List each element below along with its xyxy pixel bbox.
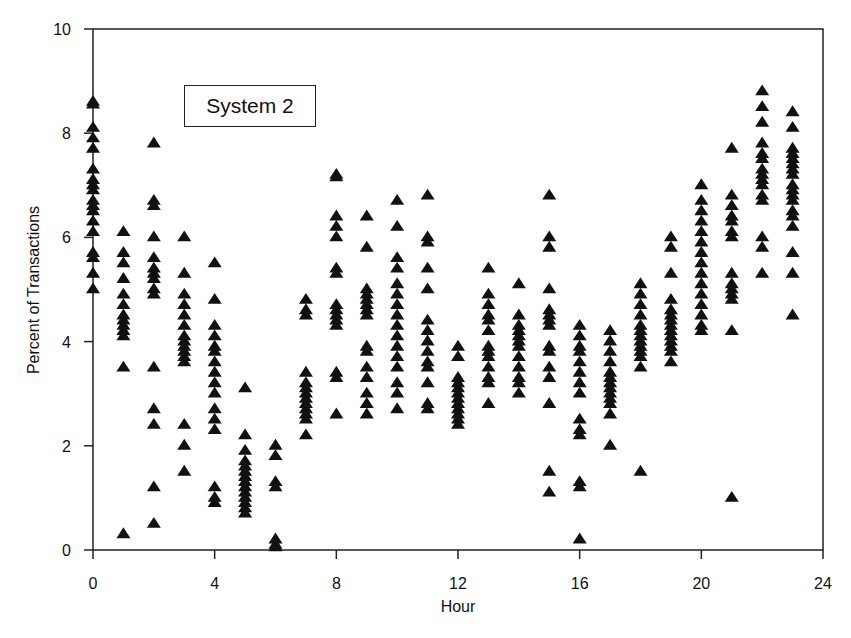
triangle-marker (694, 246, 708, 257)
triangle-marker (634, 298, 648, 309)
triangle-marker (208, 329, 222, 340)
triangle-marker (238, 381, 252, 392)
triangle-marker (116, 527, 130, 538)
triangle-marker (421, 189, 435, 200)
triangle-marker (512, 350, 526, 361)
triangle-marker (542, 371, 556, 382)
triangle-marker (208, 293, 222, 304)
triangle-marker (421, 314, 435, 325)
triangle-marker (694, 204, 708, 215)
triangle-marker (177, 288, 191, 299)
triangle-marker (664, 230, 678, 241)
triangle-marker (481, 324, 495, 335)
triangle-marker (725, 142, 739, 153)
triangle-marker (694, 267, 708, 278)
scatter-chart: 04812162024 0246810 Hour Percent of Tran… (0, 0, 851, 638)
triangle-marker (177, 439, 191, 450)
x-axis-title: Hour (441, 598, 476, 615)
y-tick-label: 10 (53, 21, 71, 38)
x-axis: 04812162024 (89, 550, 832, 592)
triangle-marker (755, 116, 769, 127)
triangle-marker (116, 298, 130, 309)
triangle-marker (360, 387, 374, 398)
y-tick-label: 2 (62, 438, 71, 455)
triangle-marker (573, 376, 587, 387)
triangle-marker (664, 355, 678, 366)
y-axis: 0246810 (53, 21, 93, 559)
triangle-marker (86, 225, 100, 236)
triangle-marker (208, 423, 222, 434)
triangle-marker (573, 366, 587, 377)
triangle-marker (481, 361, 495, 372)
triangle-marker (542, 486, 556, 497)
triangle-marker (786, 246, 800, 257)
triangle-marker (147, 137, 161, 148)
triangle-marker (603, 345, 617, 356)
triangle-marker (360, 371, 374, 382)
triangle-marker (390, 402, 404, 413)
triangle-marker (694, 298, 708, 309)
triangle-marker (390, 277, 404, 288)
triangle-marker (421, 262, 435, 273)
triangle-marker (694, 225, 708, 236)
y-tick-label: 8 (62, 125, 71, 142)
triangle-marker (360, 397, 374, 408)
triangle-marker (208, 355, 222, 366)
triangle-marker (573, 387, 587, 398)
triangle-marker (603, 324, 617, 335)
triangle-marker (116, 361, 130, 372)
triangle-marker (86, 142, 100, 153)
triangle-marker (634, 288, 648, 299)
legend-label: System 2 (206, 94, 294, 118)
x-tick-label: 16 (571, 575, 589, 592)
triangle-marker (451, 350, 465, 361)
x-tick-label: 20 (692, 575, 710, 592)
triangle-marker (694, 277, 708, 288)
x-tick-label: 12 (449, 575, 467, 592)
triangle-marker (208, 366, 222, 377)
triangle-marker (542, 230, 556, 241)
triangle-marker (725, 189, 739, 200)
triangle-marker (634, 465, 648, 476)
triangle-marker (116, 272, 130, 283)
triangle-marker (147, 251, 161, 262)
triangle-marker (481, 298, 495, 309)
triangle-marker (786, 309, 800, 320)
triangle-marker (573, 533, 587, 544)
triangle-marker (694, 178, 708, 189)
triangle-marker (208, 413, 222, 424)
triangle-marker (329, 230, 343, 241)
triangle-marker (664, 293, 678, 304)
triangle-marker (421, 335, 435, 346)
triangle-marker (390, 262, 404, 273)
triangle-marker (208, 387, 222, 398)
x-tick-label: 0 (89, 575, 98, 592)
triangle-marker (755, 241, 769, 252)
triangle-marker (360, 241, 374, 252)
triangle-marker (269, 449, 283, 460)
triangle-marker (634, 277, 648, 288)
triangle-marker (86, 215, 100, 226)
triangle-marker (421, 345, 435, 356)
triangle-marker (86, 283, 100, 294)
triangle-marker (177, 418, 191, 429)
triangle-marker (390, 350, 404, 361)
triangle-marker (542, 189, 556, 200)
triangle-marker (147, 480, 161, 491)
triangle-marker (177, 267, 191, 278)
triangle-marker (755, 267, 769, 278)
triangle-marker (634, 309, 648, 320)
triangle-marker (147, 418, 161, 429)
triangle-marker (542, 361, 556, 372)
triangle-marker (390, 251, 404, 262)
triangle-marker (786, 220, 800, 231)
triangle-marker (542, 241, 556, 252)
y-tick-label: 4 (62, 334, 71, 351)
triangle-marker (421, 324, 435, 335)
legend-box: System 2 (184, 85, 316, 127)
triangle-marker (603, 408, 617, 419)
data-points (86, 85, 800, 552)
triangle-marker (603, 355, 617, 366)
triangle-marker (116, 225, 130, 236)
triangle-marker (299, 293, 313, 304)
